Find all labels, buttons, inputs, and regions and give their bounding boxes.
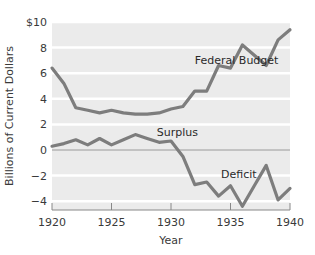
y-tick-label: 6 <box>40 67 47 80</box>
x-tick-label: 1930 <box>157 216 185 229</box>
annotation-label: Surplus <box>157 126 198 139</box>
x-tick-label: 1925 <box>98 216 126 229</box>
y-tick-label: 4 <box>40 93 47 106</box>
x-tick-label: 1940 <box>276 216 304 229</box>
annotation-label: Federal Budget <box>195 54 279 67</box>
y-tick-label: 8 <box>40 42 47 55</box>
y-tick-label: 2 <box>40 118 47 131</box>
x-axis-title: Year <box>158 234 183 247</box>
x-tick-label: 1935 <box>217 216 245 229</box>
y-axis: $1086420−2−4 <box>26 16 47 208</box>
y-tick-label: 0 <box>40 144 47 157</box>
x-tick-label: 1920 <box>38 216 66 229</box>
line-chart: 19201925193019351940 $1086420−2−4 Federa… <box>0 0 315 255</box>
y-tick-label: −4 <box>31 195 47 208</box>
y-axis-title: Billions of Current Dollars <box>3 46 16 186</box>
annotation-label: Deficit <box>221 168 257 181</box>
y-tick-label: $10 <box>26 16 47 29</box>
y-tick-label: −2 <box>31 170 47 183</box>
plot-background <box>52 22 290 210</box>
